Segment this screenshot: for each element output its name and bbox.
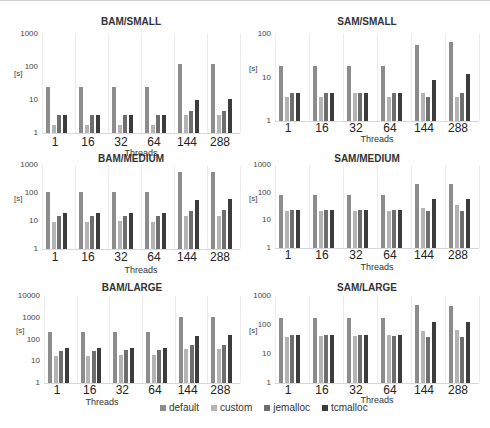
- grid-line: [108, 34, 109, 133]
- y-tick-label: 1: [239, 243, 271, 252]
- bar-custom: [285, 211, 289, 248]
- plot-area: [42, 165, 240, 250]
- bar-tcmalloc: [162, 115, 166, 133]
- grid-line: [479, 296, 480, 383]
- bar-default: [415, 184, 419, 248]
- bar-tcmalloc: [96, 213, 100, 249]
- grid-line: [207, 165, 208, 249]
- grid-line: [411, 34, 412, 121]
- bar-jemalloc: [123, 216, 127, 249]
- bar-tcmalloc: [163, 348, 167, 383]
- bar-custom: [118, 221, 122, 249]
- chart-panel-bam-small: BAM/SMALL1101001000[s]1163264144288Threa…: [0, 16, 245, 151]
- bar-tcmalloc: [129, 115, 133, 133]
- bar-custom: [319, 211, 323, 248]
- chart-title: BAM/MEDIUM: [32, 153, 230, 164]
- bar-tcmalloc: [195, 200, 199, 249]
- chart-title: BAM/LARGE: [34, 282, 230, 293]
- bar-custom: [152, 355, 156, 383]
- legend-swatch-icon: [264, 405, 270, 411]
- grid-line: [343, 165, 344, 248]
- y-tick-label: 1000: [8, 313, 40, 322]
- grid-line: [309, 165, 310, 248]
- grid-line: [309, 296, 310, 383]
- bar-jemalloc: [358, 93, 362, 121]
- bar-default: [113, 332, 117, 383]
- bar-jemalloc: [290, 93, 294, 121]
- y-axis-label: [s]: [249, 64, 257, 73]
- y-tick-label: 1: [239, 116, 271, 125]
- bar-tcmalloc: [228, 99, 232, 133]
- bar-custom: [353, 336, 357, 383]
- bar-jemalloc: [157, 350, 161, 383]
- plot-area: [42, 34, 240, 134]
- bar-default: [347, 318, 351, 383]
- grid-line: [275, 165, 276, 248]
- bar-jemalloc: [358, 335, 362, 383]
- bar-jemalloc: [57, 115, 61, 133]
- bar-custom: [217, 216, 221, 249]
- y-tick-label: 10: [239, 73, 271, 82]
- grid-line: [75, 165, 76, 249]
- x-axis-label: Threads: [275, 134, 479, 144]
- grid-line: [343, 34, 344, 121]
- bar-default: [381, 66, 385, 121]
- legend-item-jemalloc: jemalloc: [264, 402, 310, 413]
- bar-jemalloc: [392, 336, 396, 383]
- grid-line: [411, 296, 412, 383]
- bar-tcmalloc: [364, 93, 368, 121]
- bar-jemalloc: [90, 216, 94, 249]
- y-tick-label: 10: [8, 356, 40, 365]
- bar-jemalloc: [426, 211, 430, 248]
- chart-panel-bam-large: BAM/LARGE110100100010000[s]1163264144288…: [0, 282, 245, 417]
- bar-tcmalloc: [195, 336, 199, 383]
- bar-jemalloc: [460, 211, 464, 248]
- bar-custom: [319, 97, 323, 121]
- bar-jemalloc: [324, 210, 328, 248]
- chart-title: SAM/SMALL: [265, 16, 469, 27]
- bar-custom: [85, 222, 89, 249]
- bar-default: [211, 64, 215, 133]
- bar-default: [81, 332, 85, 383]
- bar-default: [146, 332, 150, 383]
- legend-swatch-icon: [211, 405, 217, 411]
- grid-line: [142, 296, 143, 383]
- bar-jemalloc: [392, 93, 396, 121]
- bar-custom: [217, 115, 221, 133]
- bar-tcmalloc: [330, 210, 334, 248]
- bar-custom: [353, 211, 357, 248]
- grid-line: [75, 34, 76, 133]
- grid-line: [240, 296, 241, 383]
- bar-default: [178, 172, 182, 249]
- bar-tcmalloc: [432, 199, 436, 248]
- bar-custom: [387, 211, 391, 248]
- bar-jemalloc: [92, 351, 96, 383]
- grid-line: [175, 296, 176, 383]
- grid-line: [377, 296, 378, 383]
- bar-default: [46, 87, 50, 133]
- bar-custom: [52, 222, 56, 249]
- bar-custom: [184, 115, 188, 133]
- bar-default: [347, 195, 351, 248]
- bar-tcmalloc: [364, 335, 368, 383]
- bar-tcmalloc: [466, 322, 470, 383]
- grid-line: [207, 296, 208, 383]
- bar-jemalloc: [123, 115, 127, 133]
- plot-area: [275, 165, 479, 249]
- bar-jemalloc: [358, 210, 362, 248]
- legend-item-tcmalloc: tcmalloc: [322, 402, 368, 413]
- bar-custom: [184, 216, 188, 249]
- bar-jemalloc: [460, 93, 464, 121]
- bar-jemalloc: [156, 216, 160, 249]
- bar-default: [279, 318, 283, 383]
- bar-tcmalloc: [296, 335, 300, 383]
- bar-custom: [455, 330, 459, 383]
- bar-default: [415, 305, 419, 383]
- y-tick-label: 1: [8, 378, 40, 387]
- grid-line: [141, 165, 142, 249]
- bar-default: [145, 192, 149, 249]
- x-tick-label: 288: [200, 250, 240, 264]
- bar-default: [415, 45, 419, 121]
- bar-default: [48, 332, 52, 383]
- bar-default: [46, 192, 50, 249]
